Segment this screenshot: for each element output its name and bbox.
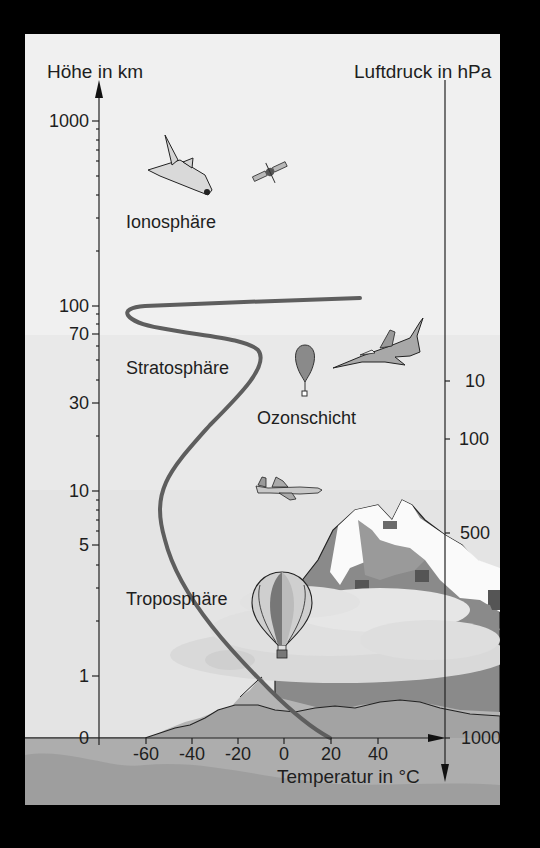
pressure-tick-label: 1000	[461, 729, 500, 747]
pressure-tick-label: 10	[465, 372, 485, 390]
pressure-tick-label: 100	[459, 430, 489, 448]
pressure-tick-label: 500	[460, 524, 490, 542]
height-tick-label: 10	[29, 482, 89, 500]
temperature-tick-label: 40	[358, 745, 398, 763]
temperature-tick-label: 0	[264, 745, 304, 763]
temperature-tick-label: -60	[126, 745, 166, 763]
height-tick-label: 1000	[29, 112, 89, 130]
temperature-axis-title: Temperatur in °C	[277, 767, 420, 786]
height-tick-label: 0	[29, 729, 89, 747]
pressure-axis-title: Luftdruck in hPa	[354, 62, 491, 81]
height-tick-label: 70	[29, 325, 89, 343]
height-tick-label: 1	[29, 667, 89, 685]
layer-label-troposphere: Troposphäre	[126, 590, 227, 608]
height-tick-label: 30	[29, 394, 89, 412]
layer-label-ozone-layer: Ozonschicht	[257, 409, 356, 427]
atmosphere-diagram: Höhe in km Luftdruck in hPa Temperatur i…	[25, 34, 500, 805]
temperature-tick-label: 20	[311, 745, 351, 763]
height-tick-label: 5	[29, 536, 89, 554]
height-tick-label: 100	[29, 297, 89, 315]
temperature-tick-label: -20	[218, 745, 258, 763]
layer-label-stratosphere: Stratosphäre	[126, 359, 229, 377]
temperature-tick-label: -40	[172, 745, 212, 763]
layer-label-ionosphere: Ionosphäre	[126, 213, 216, 231]
height-axis-title: Höhe in km	[47, 62, 143, 81]
